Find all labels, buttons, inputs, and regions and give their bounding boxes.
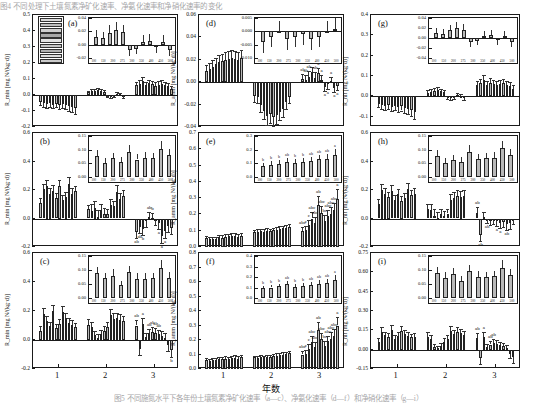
error-bar-cap bbox=[288, 351, 292, 352]
bar bbox=[391, 96, 393, 106]
y-tick-mark bbox=[370, 368, 373, 369]
inset-y-tick-label: 0.15 bbox=[66, 133, 86, 138]
error-bar bbox=[257, 97, 258, 104]
bar bbox=[489, 83, 491, 97]
significance-letter: a bbox=[161, 244, 163, 249]
bar bbox=[234, 358, 236, 369]
bar bbox=[237, 359, 239, 369]
bar bbox=[397, 194, 399, 218]
error-bar-cap bbox=[512, 224, 516, 225]
bar bbox=[336, 199, 338, 247]
bar bbox=[496, 85, 498, 96]
inset-h: 100150200275300350400450500 bbox=[428, 135, 518, 183]
inset-x-tick-labels: 100150200275300350400450500 bbox=[255, 178, 341, 182]
y-tick-mark bbox=[198, 181, 201, 182]
y-tick-label: 0.6 bbox=[174, 145, 196, 151]
inset-zero-line bbox=[89, 45, 175, 46]
bar bbox=[476, 338, 478, 350]
inset-error-bar bbox=[123, 25, 124, 32]
bar bbox=[151, 84, 153, 95]
significance-letter: a bbox=[330, 70, 332, 75]
y-axis-label-d: R_amm [mg N/(kg·d)] bbox=[170, 51, 176, 106]
significance-letter: a bbox=[158, 230, 160, 235]
bar bbox=[43, 95, 45, 103]
inset-y-tick-mark bbox=[429, 256, 432, 257]
significance-letter: a bbox=[142, 311, 144, 316]
inset-bar bbox=[484, 277, 489, 298]
inset-y-tick-mark bbox=[89, 18, 92, 19]
inset-bar bbox=[135, 279, 140, 298]
bar bbox=[378, 96, 380, 103]
inset-x-tick-label: 500 bbox=[510, 178, 515, 182]
inset-x-tick-labels: 100150200275300350400450500 bbox=[255, 299, 341, 303]
bar bbox=[314, 347, 316, 369]
bar bbox=[447, 214, 449, 219]
inset-bar bbox=[119, 162, 124, 177]
bar bbox=[240, 58, 242, 83]
bar bbox=[87, 209, 89, 218]
bar bbox=[106, 327, 108, 340]
inset-error-bar bbox=[287, 281, 288, 284]
error-bar bbox=[117, 185, 118, 192]
error-bar-cap bbox=[217, 55, 221, 56]
bar bbox=[327, 216, 329, 247]
bar bbox=[91, 327, 93, 340]
y-tick-label: 0.2 bbox=[8, 59, 30, 65]
inset-x-tick-label: 100 bbox=[257, 299, 262, 303]
bar bbox=[282, 228, 284, 247]
y-tick-mark bbox=[32, 310, 35, 311]
inset-significance-letter: ab bbox=[285, 152, 289, 157]
error-bar-cap bbox=[426, 332, 430, 333]
error-bar-cap bbox=[221, 54, 225, 55]
inset-x-tick-label: 400 bbox=[315, 178, 320, 182]
error-bar-cap bbox=[48, 188, 52, 189]
error-bar-cap bbox=[90, 204, 94, 205]
inset-x-tick-label: 100 bbox=[91, 178, 96, 182]
bar bbox=[453, 334, 455, 349]
legend-swatch bbox=[40, 49, 62, 53]
inset-significance-letter: ab bbox=[325, 273, 329, 278]
error-bar-cap bbox=[70, 188, 74, 189]
error-bar-cap bbox=[383, 110, 387, 111]
inset-bar bbox=[143, 158, 148, 177]
bar bbox=[260, 82, 262, 104]
y-tick-mark bbox=[32, 110, 35, 111]
bar bbox=[65, 95, 67, 105]
inset-bar bbox=[293, 163, 298, 177]
y-tick-label: 0.5 bbox=[8, 11, 30, 17]
error-bar bbox=[273, 117, 274, 126]
x-tick-label: 2 bbox=[269, 370, 273, 380]
bar bbox=[437, 90, 439, 97]
inset-bar bbox=[301, 162, 306, 177]
error-bar-cap bbox=[269, 123, 273, 124]
inset-y-tick-label: -0.005 bbox=[232, 41, 252, 46]
y-tick-mark bbox=[198, 368, 201, 369]
inset-error-bar bbox=[295, 284, 296, 287]
x-tick-label: 1 bbox=[394, 370, 398, 380]
inset-y-tick-label: -0.010 bbox=[232, 55, 252, 60]
inset-bar bbox=[151, 158, 156, 177]
y-tick-label: 0.2 bbox=[8, 186, 30, 192]
inset-error-bar bbox=[279, 160, 280, 164]
y-tick-label: 0.3 bbox=[8, 43, 30, 49]
bar bbox=[263, 357, 265, 369]
y-tick-label: 0.2 bbox=[174, 336, 196, 342]
inset-y-tick-label: 0.00 bbox=[66, 41, 86, 46]
y-tick-mark bbox=[370, 14, 373, 15]
error-bar-cap bbox=[236, 52, 240, 53]
error-bar bbox=[283, 109, 284, 117]
y-tick-mark bbox=[198, 213, 201, 214]
inset-bar bbox=[500, 268, 505, 298]
bar bbox=[456, 196, 458, 218]
inset-x-tick-label: 350 bbox=[139, 59, 144, 63]
bar bbox=[387, 337, 389, 350]
inset-y-tick-label: 0.2 bbox=[232, 274, 252, 279]
inset-error-bar bbox=[279, 284, 280, 287]
inset-plot-area bbox=[429, 136, 517, 177]
bar bbox=[404, 96, 406, 107]
inset-error-bar bbox=[169, 149, 170, 155]
bar bbox=[100, 91, 102, 95]
error-bar-cap bbox=[436, 212, 440, 213]
inset-x-tick-label: 350 bbox=[305, 178, 310, 182]
bar bbox=[52, 191, 54, 219]
